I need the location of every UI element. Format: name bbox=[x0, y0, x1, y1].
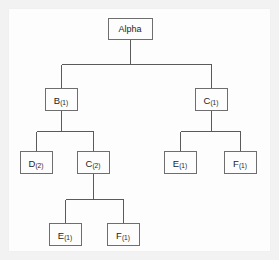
node-label-subscript: (1) bbox=[60, 99, 68, 107]
tree-diagram: AlphaB(1)C(1)D(2)C(2)E(1)F(1)E(1)F(1) bbox=[0, 0, 279, 260]
tree-graph: AlphaB(1)C(1)D(2)C(2)E(1)F(1)E(1)F(1) bbox=[0, 0, 279, 260]
tree-node-root[interactable]: Alpha bbox=[109, 19, 153, 40]
node-label-subscript: (1) bbox=[179, 162, 187, 170]
node-label-subscript: (1) bbox=[239, 162, 247, 170]
node-label: Alpha bbox=[118, 24, 141, 34]
tree-node-e1r[interactable]: E(1) bbox=[165, 152, 197, 174]
tree-node-f1b[interactable]: F(1) bbox=[108, 224, 140, 246]
node-label-subscript: (1) bbox=[122, 234, 130, 242]
node-label-subscript: (2) bbox=[92, 162, 100, 170]
edge-layer bbox=[37, 40, 241, 224]
tree-node-d2[interactable]: D(2) bbox=[21, 152, 53, 174]
tree-node-e1b[interactable]: E(1) bbox=[50, 224, 82, 246]
node-label-subscript: (1) bbox=[210, 99, 218, 107]
tree-node-c1[interactable]: C(1) bbox=[196, 89, 228, 111]
tree-node-b1[interactable]: B(1) bbox=[46, 89, 78, 111]
node-label-subscript: (2) bbox=[35, 162, 43, 170]
node-label-subscript: (1) bbox=[64, 234, 72, 242]
tree-node-c2[interactable]: C(2) bbox=[78, 152, 110, 174]
tree-node-f1r[interactable]: F(1) bbox=[225, 152, 257, 174]
